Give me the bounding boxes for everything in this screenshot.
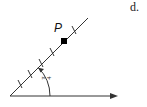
angle-denominator: 4 bbox=[46, 76, 52, 79]
polar-angle-diagram bbox=[0, 0, 147, 107]
angle-arc bbox=[38, 68, 50, 96]
part-label: d. bbox=[130, 0, 139, 15]
point-p-marker bbox=[61, 38, 67, 44]
angle-label: π 4 bbox=[40, 76, 52, 79]
arc-arrowhead-icon bbox=[38, 68, 44, 73]
point-label: P bbox=[54, 21, 62, 35]
arrowhead-icon bbox=[110, 93, 118, 99]
terminal-ray bbox=[10, 18, 88, 96]
